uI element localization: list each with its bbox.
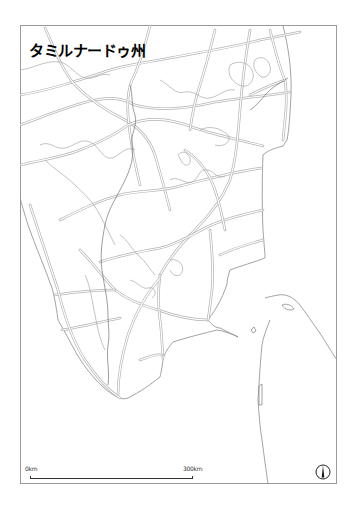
mannar-islet [259, 384, 262, 405]
sri-lanka-coastline [258, 295, 337, 484]
north-arrow-icon [315, 464, 331, 480]
sri-lanka-islet [282, 304, 294, 310]
adams-bridge-islet [251, 327, 256, 333]
scale-bar [30, 476, 193, 479]
scale-end-label: 300km [183, 465, 202, 472]
scale-start-label: 0km [25, 465, 37, 472]
road-network [20, 26, 300, 398]
map-canvas [0, 0, 356, 514]
map-title: タミルナードゥ州 [29, 39, 145, 60]
